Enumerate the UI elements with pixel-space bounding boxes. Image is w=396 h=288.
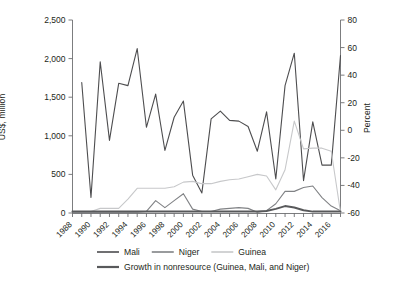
x-axis-tick-label: 2008 [239, 220, 259, 240]
y-axis-right-tick-label: -60 [348, 208, 361, 218]
y-axis-left-tick-label: 2,000 [44, 54, 66, 64]
y-axis-right-tick-label: 80 [348, 15, 358, 25]
x-axis-tick-label: 2000 [166, 220, 186, 240]
legend-label: Niger [179, 247, 200, 257]
y-axis-left: 05001,0001,5002,0002,500 [44, 15, 72, 218]
y-axis-left-tick-label: 0 [61, 208, 66, 218]
line-chart: 05001,0001,5002,0002,500 -60-40-20020406… [0, 0, 396, 288]
x-axis-tick-label: 2002 [184, 220, 204, 240]
series-line-mali [82, 49, 341, 198]
x-axis-tick-label: 2004 [203, 220, 223, 240]
y-axis-right-tick-label: 40 [348, 70, 358, 80]
x-axis-tick-label: 2014 [295, 220, 315, 240]
x-axis-tick-label: 1994 [110, 220, 130, 240]
series-group [73, 49, 341, 213]
y-axis-left-tick-label: 1,500 [44, 92, 66, 102]
y-axis-right-tick-label: 0 [348, 125, 353, 135]
legend-label: Mali [124, 247, 140, 257]
x-axis-tick-label: 1998 [147, 220, 167, 240]
chart-legend: MaliNigerGuineaGrowth in nonresource (Gu… [97, 247, 309, 272]
x-axis-tick-label: 1990 [73, 220, 93, 240]
x-axis-tick-label: 1988 [55, 220, 75, 240]
y-axis-left-tick-label: 2,500 [44, 15, 66, 25]
x-axis-tick-label: 2012 [276, 220, 296, 240]
y-axis-right-tick-label: 60 [348, 43, 358, 53]
x-axis-tick-label: 2006 [221, 220, 241, 240]
y-axis-right-tick-label: 20 [348, 98, 358, 108]
chart-figure: US$, million Percent 05001,0001,5002,000… [0, 0, 396, 288]
y-axis-right-tick-label: -20 [348, 153, 361, 163]
y-axis-right-tick-label: -40 [348, 180, 361, 190]
y-axis-right: -60-40-20020406080 [341, 15, 361, 218]
x-axis-tick-label: 1996 [129, 220, 149, 240]
x-axis-tick-label: 1992 [92, 220, 112, 240]
legend-label: Guinea [238, 247, 266, 257]
x-axis-tick-label: 2010 [258, 220, 278, 240]
x-axis: 1988199019921994199619982000200220042006… [55, 213, 341, 239]
x-axis-tick-label: 2016 [313, 220, 333, 240]
y-axis-left-tick-label: 1,000 [44, 131, 66, 141]
legend-label: Growth in nonresource (Guinea, Mali, and… [124, 262, 309, 272]
y-axis-left-tick-label: 500 [51, 169, 65, 179]
